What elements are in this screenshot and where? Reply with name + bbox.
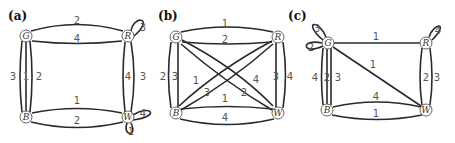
edge-label: 4: [312, 72, 318, 83]
graph-figure: (a) 2 4 3 3 1 2 4 3 1 2 4 1 G: [0, 0, 455, 143]
edge-RW-left: [420, 48, 422, 105]
edge-label: 1: [222, 93, 228, 104]
svg-text:G: G: [324, 38, 331, 48]
edge-label: 4: [287, 71, 293, 82]
node-G: G: [20, 30, 32, 42]
panel-c: (c) 3 2 1 1 4 4 2 3 2 3 4 1: [288, 9, 441, 120]
node-R: R: [420, 37, 432, 49]
edge-label: 4: [435, 25, 441, 36]
edge-label: 3: [204, 87, 210, 98]
node-G: G: [322, 37, 334, 49]
edge-label: 3: [335, 72, 341, 83]
edge-label: 3: [273, 71, 279, 82]
edge-label: 1: [373, 31, 379, 42]
edge-label: 3: [140, 71, 146, 82]
node-W: W: [420, 104, 432, 116]
edge-RW-right: [131, 42, 134, 112]
node-G: G: [170, 31, 182, 43]
panel-label-a: (a): [8, 9, 27, 23]
panel-a: (a) 2 4 3 3 1 2 4 3 1 2 4 1 G: [8, 9, 151, 137]
edge-label: 4: [140, 108, 146, 119]
svg-text:B: B: [172, 108, 180, 118]
edge-GB-left: [20, 41, 22, 112]
node-R: R: [272, 31, 284, 43]
edge-label: 2: [324, 72, 330, 83]
edge-label: 1: [193, 75, 199, 86]
node-B: B: [170, 107, 182, 119]
edge-label: 1: [373, 108, 379, 119]
edge-label: 3: [140, 22, 146, 33]
edge-RW-right: [430, 48, 432, 105]
svg-text:B: B: [22, 112, 30, 122]
svg-text:R: R: [124, 31, 132, 41]
node-B: B: [321, 104, 333, 116]
edge-label: 2: [74, 115, 80, 126]
edge-label: 4: [222, 112, 228, 123]
edge-label: 2: [74, 15, 80, 26]
edge-label: 4: [373, 91, 379, 102]
edge-label: 2: [36, 71, 42, 82]
edge-GB-left: [169, 42, 172, 108]
node-W: W: [122, 111, 134, 123]
edge-BW-top: [181, 107, 273, 110]
edge-label: 4: [125, 71, 131, 82]
edge-label: 2: [423, 72, 429, 83]
svg-text:G: G: [172, 32, 179, 42]
edge-label: 3: [434, 72, 440, 83]
svg-text:B: B: [323, 105, 331, 115]
node-B: B: [20, 111, 32, 123]
edge-label: 2: [241, 87, 247, 98]
svg-text:G: G: [22, 31, 29, 41]
panel-label-b: (b): [158, 9, 178, 23]
edge-label: 2: [222, 34, 228, 45]
svg-text:R: R: [274, 32, 282, 42]
node-R: R: [122, 30, 134, 42]
edge-label: 1: [222, 18, 228, 29]
edge-label: 3: [10, 71, 16, 82]
edge-label: 2: [308, 42, 314, 53]
edge-label: 4: [253, 74, 259, 85]
edge-label: 2: [160, 71, 166, 82]
edge-label: 3: [172, 71, 178, 82]
edge-label: 1: [370, 59, 376, 70]
edge-GB-right: [30, 41, 32, 112]
edge-BW-top: [333, 102, 421, 107]
edge-RW-right: [283, 42, 286, 108]
edge-label: 3: [314, 23, 320, 34]
edge-BW-top: [32, 109, 122, 114]
edge-label: 1: [74, 95, 80, 106]
node-W: W: [272, 107, 284, 119]
svg-text:W: W: [273, 108, 283, 118]
edge-label: 1: [128, 126, 134, 137]
svg-text:R: R: [422, 38, 430, 48]
edge-label: 1: [23, 71, 29, 82]
svg-text:W: W: [421, 105, 431, 115]
edge-label: 4: [74, 33, 80, 44]
panel-b: (b) 1 2 2 3 3 4 1 3 4 2 1 4 G: [158, 9, 293, 125]
svg-text:W: W: [123, 112, 133, 122]
panel-label-c: (c): [288, 9, 307, 23]
edge-GB-left: [322, 48, 324, 105]
